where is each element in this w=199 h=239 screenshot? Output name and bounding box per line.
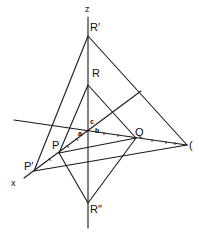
edge-P-Rpp (59, 153, 88, 203)
label-right-point: ( (189, 139, 193, 151)
edge-P-Q (59, 138, 136, 153)
x-axis-label: x (11, 178, 16, 188)
label-R-prime: R′ (90, 21, 100, 33)
label-R-double-prime: R″ (90, 203, 102, 215)
label-P-prime: P′ (24, 160, 33, 172)
label-b: b (95, 127, 99, 134)
z-axis-label: z (85, 4, 90, 14)
diagram-canvas: z x R′ R R″ P P′ Q ( a b c (0, 0, 199, 239)
label-a: a (78, 130, 82, 137)
axis-ticks (49, 132, 175, 161)
label-Q: Q (135, 126, 144, 138)
y-axis (14, 120, 187, 145)
label-R: R (92, 67, 100, 79)
label-c: c (90, 118, 94, 125)
x-axis (24, 91, 141, 178)
label-P: P (52, 139, 59, 151)
edge-R-P (59, 85, 88, 153)
edge-Q-Rpp (88, 138, 136, 203)
